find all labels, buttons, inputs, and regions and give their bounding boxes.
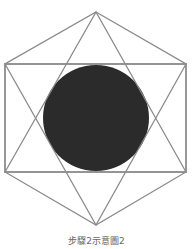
geometry-diagram bbox=[0, 0, 193, 232]
filled-circle bbox=[43, 65, 149, 171]
figure-caption: 步驟2示意圖2 bbox=[0, 234, 193, 247]
